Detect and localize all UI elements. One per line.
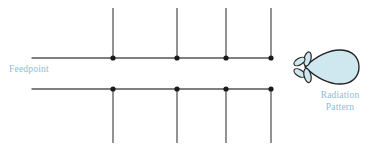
junction-dot-top-3 (223, 55, 228, 60)
antenna-array-diagram (0, 0, 382, 150)
antenna-array-group (32, 8, 274, 143)
radiation-pattern-label-line2: Pattern (305, 102, 375, 114)
radiation-main-lobe (305, 50, 359, 84)
figure-canvas: Feedpoint Radiation Pattern (0, 0, 382, 150)
junction-dot-bottom-2 (174, 86, 179, 91)
junction-dot-top-1 (110, 55, 115, 60)
junction-dot-bottom-1 (110, 86, 115, 91)
junction-dot-top-2 (174, 55, 179, 60)
radiation-pattern-label-line1: Radiation (305, 90, 375, 102)
radiation-pattern-label: Radiation Pattern (305, 90, 375, 113)
radiation-pattern-group (293, 50, 359, 84)
junction-dot-bottom-3 (223, 86, 228, 91)
junction-dot-top-4 (268, 55, 273, 60)
junction-dot-bottom-4 (268, 86, 273, 91)
feedpoint-label: Feedpoint (9, 64, 49, 76)
